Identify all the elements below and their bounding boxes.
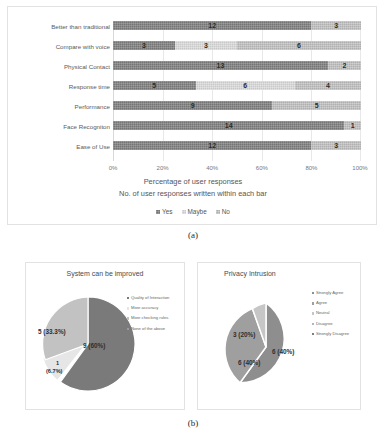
x-axis-sublabel: No. of user responses written within eac… (8, 189, 378, 198)
pie-legend-label-0: Strongly Agree (316, 291, 343, 295)
pie-legend-swatch-1-icon (312, 302, 314, 304)
legend-swatch-yes-icon (156, 210, 160, 214)
pie-legend-item-3: Disagree (312, 322, 364, 326)
x-tick-1: 20% (157, 165, 169, 171)
pie-legend-item-2: Neutral (312, 311, 364, 315)
bar-row: 12 3 (113, 21, 361, 30)
pie-legend-label-0: Quality of Interaction (131, 296, 169, 300)
category-label-3: Response time (69, 83, 110, 91)
bar-segment-no: 3 (311, 141, 361, 150)
category-label-1: Compare with voice (56, 43, 110, 51)
pie-legend-label-1: More accuracy (131, 306, 158, 310)
pie-legend-swatch-2-icon (127, 317, 129, 319)
pie-slice-label-strongly-agree: 6 (40%) (272, 348, 294, 355)
bar-value-yes: 9 (113, 101, 272, 110)
bar-segment-yes: 13 (113, 61, 328, 70)
figure-a-panel: Better than traditional Compare with voi… (7, 6, 377, 225)
legend-swatch-no-icon (216, 210, 220, 214)
bar-row: 14 1 (113, 121, 361, 130)
legend-label-no: No (222, 208, 230, 215)
pie-legend-swatch-0-icon (127, 297, 129, 299)
bar-value-no: 1 (344, 121, 361, 130)
pie-legend-2: Strongly Agree Agree Neutral Disagree St… (312, 291, 364, 342)
bar-value-no: 3 (311, 141, 361, 150)
bar-value-no: 4 (295, 81, 361, 90)
pie-legend-label-3: None of the above (131, 327, 165, 331)
pie-slice-label-quality: 9 (60%) (83, 342, 105, 349)
pie-legend-item-4: Strongly Disagree (312, 332, 364, 336)
figure-caption-b: (b) (0, 418, 386, 428)
pie-chart-1: 9 (60%) 1 (6.7%) 5 (33.3%) (39, 295, 137, 393)
category-label-4: Performance (75, 103, 110, 111)
figure-caption-a: (a) (0, 230, 386, 240)
bar-plot-area: 12 3 3 3 6 13 2 5 6 4 9 (113, 21, 361, 161)
pie-slice-label-neutral: 3 (20%) (233, 331, 255, 338)
bar-value-yes: 14 (113, 121, 344, 130)
x-tick-2: 40% (206, 165, 218, 171)
category-label-6: Ease of Use (76, 143, 110, 151)
pie-legend-item-2: More checking rules (127, 316, 185, 320)
bar-row: 12 3 (113, 141, 361, 150)
bar-value-yes: 5 (113, 81, 196, 90)
pie-legend-1: Quality of Interaction More accuracy Mor… (127, 296, 185, 337)
pie-legend-label-1: Agree (316, 301, 327, 305)
pie-slice-label-checking-rules: 5 (33.3%) (38, 328, 66, 335)
pie-slice-label-accuracy-count: 1 (56, 360, 59, 366)
bar-segment-no: 4 (295, 81, 361, 90)
pie-legend-swatch-2-icon (312, 312, 314, 314)
x-axis-ticks: 0% 20% 40% 60% 80% 100% (113, 165, 361, 177)
bar-value-no: 3 (311, 21, 361, 30)
bar-value-yes: 3 (113, 41, 175, 50)
bar-row: 5 6 4 (113, 81, 361, 90)
bar-segment-yes: 12 (113, 141, 311, 150)
bar-value-yes: 12 (113, 21, 311, 30)
pie-legend-label-2: Neutral (316, 311, 330, 315)
bar-segment-yes: 5 (113, 81, 196, 90)
bar-segment-yes: 12 (113, 21, 311, 30)
bar-segment-no: 6 (237, 41, 361, 50)
bar-chart-legend: Yes Maybe No (8, 208, 378, 215)
bar-value-yes: 13 (113, 61, 328, 70)
legend-item-no: No (216, 208, 230, 215)
pie-legend-swatch-0-icon (312, 292, 314, 294)
x-tick-5: 100% (352, 165, 367, 171)
pie-slice-label-accuracy-percent: (6.7%) (46, 368, 62, 374)
pie-title-1: System can be improved (26, 270, 184, 277)
pie-chart-2: 6 (40%) 6 (40%) 3 (20%) (220, 301, 312, 393)
pie-legend-label-2: More checking rules (131, 316, 168, 320)
bar-row: 3 3 6 (113, 41, 361, 50)
x-tick-0: 0% (109, 165, 118, 171)
bar-value-no: 5 (272, 101, 361, 110)
legend-label-yes: Yes (162, 208, 172, 215)
bar-segment-yes: 14 (113, 121, 344, 130)
pie-legend-item-3: None of the above (127, 327, 185, 331)
bar-segment-maybe: 3 (175, 41, 237, 50)
pie-slice-label-agree: 6 (40%) (238, 359, 260, 366)
pie-legend-item-0: Quality of Interaction (127, 296, 185, 300)
bar-value-no: 2 (328, 61, 361, 70)
pie-panel-system-improved: System can be improved 9 (60%) 1 (6.7%) … (25, 262, 185, 410)
bar-row: 9 5 (113, 101, 361, 110)
pie-legend-swatch-3-icon (312, 323, 314, 325)
bar-segment-no: 3 (311, 21, 361, 30)
pie-title-2: Privacy Intrusion (198, 270, 360, 277)
pie-legend-label-4: Strongly Disagree (316, 332, 349, 336)
bar-value-maybe: 6 (196, 81, 295, 90)
bar-value-no: 6 (237, 41, 361, 50)
pie-legend-item-1: Agree (312, 301, 364, 305)
pie-legend-item-1: More accuracy (127, 306, 185, 310)
x-tick-3: 60% (256, 165, 268, 171)
bar-segment-yes: 9 (113, 101, 272, 110)
bar-segment-no: 1 (344, 121, 361, 130)
pie-legend-swatch-3-icon (127, 328, 129, 330)
pie-panel-privacy-intrusion: Privacy Intrusion 6 (40%) 6 (40%) 3 (20%… (197, 262, 361, 410)
pie-legend-item-0: Strongly Agree (312, 291, 364, 295)
legend-label-maybe: Maybe (188, 208, 207, 215)
bar-segment-maybe: 6 (196, 81, 295, 90)
bar-value-yes: 12 (113, 141, 311, 150)
legend-item-yes: Yes (156, 208, 172, 215)
category-label-2: Physical Contact (64, 63, 110, 71)
stacked-bar-chart: Better than traditional Compare with voi… (8, 7, 378, 167)
pie-svg-2 (220, 301, 312, 393)
x-tick-4: 80% (305, 165, 317, 171)
